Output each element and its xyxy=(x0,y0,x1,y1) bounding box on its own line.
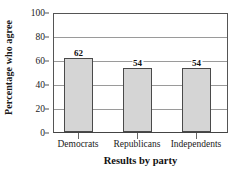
x-category-label-democrats: Democrats xyxy=(57,139,98,149)
bar-value-label-republicans: 54 xyxy=(132,58,143,68)
y-tick-mark-100 xyxy=(45,13,49,14)
bar-value-label-independents: 54 xyxy=(191,58,202,68)
bar-independents xyxy=(182,68,211,132)
y-tick-mark-20 xyxy=(45,109,49,110)
gridline-80 xyxy=(54,37,227,38)
y-tick-mark-0 xyxy=(45,133,49,134)
bar-democrats xyxy=(64,58,93,132)
bar-chart-figure: Percentage who agree 100 80 60 40 20 0 6… xyxy=(0,0,244,179)
y-tick-mark-60 xyxy=(45,61,49,62)
y-tick-label-80: 80 xyxy=(36,32,46,42)
plot-area: 62 54 54 xyxy=(53,13,228,133)
y-axis-tick-labels: 100 80 60 40 20 0 xyxy=(16,0,49,140)
y-tick-label-100: 100 xyxy=(31,8,45,18)
y-tick-mark-80 xyxy=(45,37,49,38)
bar-value-label-democrats: 62 xyxy=(73,48,84,58)
x-category-label-republicans: Republicans xyxy=(114,139,161,149)
y-axis-title-text: Percentage who agree xyxy=(3,20,14,115)
x-axis-title: Results by party xyxy=(53,155,228,166)
y-tick-label-20: 20 xyxy=(36,104,46,114)
y-tick-mark-40 xyxy=(45,85,49,86)
y-axis-title: Percentage who agree xyxy=(0,0,16,134)
y-tick-label-40: 40 xyxy=(36,80,46,90)
y-tick-label-60: 60 xyxy=(36,56,46,66)
x-category-label-independents: Independents xyxy=(171,139,222,149)
bar-republicans xyxy=(123,68,152,132)
